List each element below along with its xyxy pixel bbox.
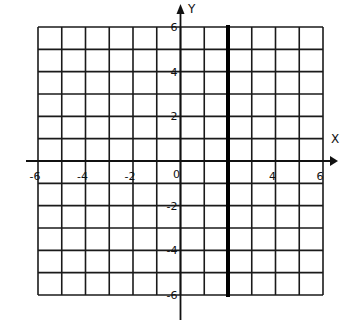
- y-tick-label: 6: [171, 21, 178, 34]
- x-tick-label: -2: [125, 170, 136, 183]
- x-tick-label: -4: [77, 170, 88, 183]
- origin-label: 0: [173, 168, 180, 181]
- y-axis-arrow-icon: [177, 4, 185, 14]
- y-tick-label: -6: [167, 289, 178, 302]
- x-axis-label: X: [331, 132, 339, 146]
- y-axis-label: Y: [187, 2, 196, 16]
- x-axis-arrow-icon: [330, 156, 338, 166]
- x-tick-label: 4: [269, 170, 276, 183]
- y-tick-label: -4: [167, 244, 178, 257]
- y-tick-label: -2: [167, 200, 178, 213]
- coordinate-plane: -6-4-2460642-2-4-6 X Y: [0, 0, 347, 327]
- y-tick-label: 2: [171, 110, 178, 123]
- x-tick-label: 6: [317, 170, 324, 183]
- y-tick-label: 4: [171, 66, 178, 79]
- x-tick-label: -6: [30, 170, 41, 183]
